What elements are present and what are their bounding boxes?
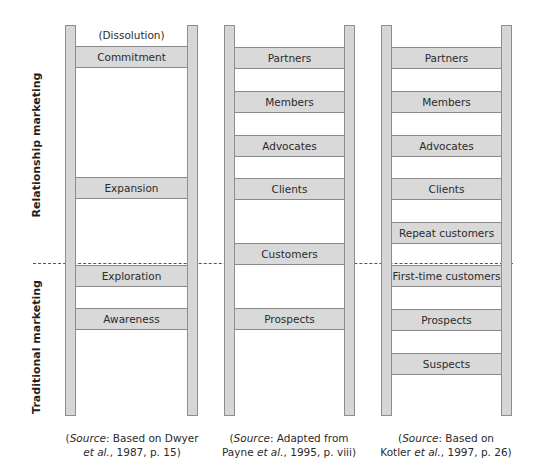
traditional-marketing-label: Traditional marketing [30,267,44,427]
rung: Advocates [392,135,501,157]
rung: Prospects [392,309,501,331]
ladder-rail-left [65,25,76,416]
rung: Members [392,91,501,113]
ladder-rail-left [381,25,392,416]
source-caption: (Source: Based on Dwyer et al., 1987, p.… [57,431,207,459]
rung: Customers [235,243,344,265]
rung: Members [235,91,344,113]
ladder-rail-right [344,25,355,416]
relationship-marketing-label: Relationship marketing [30,65,44,225]
rung: Clients [392,178,501,200]
rung: Exploration [76,265,187,287]
ladder-rail-right [501,25,512,416]
rung: Clients [235,178,344,200]
dissolution-label: (Dissolution) [76,29,187,41]
rung: Partners [235,47,344,69]
ladder-rail-left [224,25,235,416]
source-caption: (Source: Based on Kotler et al., 1997, p… [371,431,521,459]
rung: Commitment [76,46,187,68]
rung: Expansion [76,177,187,199]
rung: Prospects [235,308,344,330]
rung: Repeat customers [392,222,501,244]
rung: Awareness [76,308,187,330]
rung: First-time customers [392,265,501,287]
source-caption: (Source: Adapted from Payne et al., 1995… [214,431,364,459]
rung: Advocates [235,135,344,157]
rung: Partners [392,47,501,69]
ladder-rail-right [187,25,198,416]
rung: Suspects [392,353,501,375]
